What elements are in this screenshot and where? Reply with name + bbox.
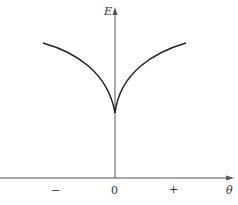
x-axis-arrow-icon	[226, 176, 234, 181]
x-tick-zero: 0	[111, 185, 118, 196]
energy-diagram	[0, 0, 238, 205]
energy-curve-left	[43, 43, 115, 113]
x-axis-label: θ	[226, 185, 233, 196]
energy-curve-right	[115, 43, 186, 113]
y-axis-label: E	[104, 6, 112, 17]
x-tick-negative: −	[51, 185, 60, 196]
x-tick-positive: +	[169, 184, 178, 195]
y-axis-arrow-icon	[113, 7, 118, 15]
